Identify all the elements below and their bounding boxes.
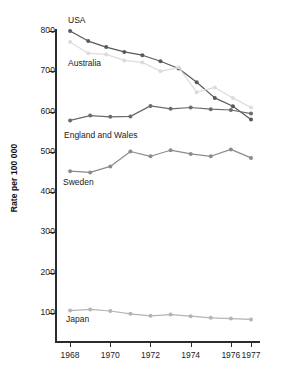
data-point [104, 52, 108, 56]
data-point [140, 53, 144, 57]
series-lines [0, 0, 282, 381]
data-point [68, 309, 72, 313]
data-point [128, 150, 132, 154]
plot-area [0, 0, 282, 381]
data-point [68, 118, 72, 122]
series-line [70, 149, 251, 172]
data-point [213, 85, 217, 89]
data-point [86, 39, 90, 43]
series-england-and-wales [68, 104, 253, 123]
data-point [108, 115, 112, 119]
data-point [213, 96, 217, 100]
data-point [122, 50, 126, 54]
data-point [149, 154, 153, 158]
data-point [108, 309, 112, 313]
data-point [249, 112, 253, 116]
data-point [122, 58, 126, 62]
data-point [149, 104, 153, 108]
series-line [70, 42, 251, 108]
data-point [189, 314, 193, 318]
series-line [70, 309, 251, 319]
data-point [209, 107, 213, 111]
data-point [169, 313, 173, 317]
data-point [231, 96, 235, 100]
data-point [88, 307, 92, 311]
data-point [88, 114, 92, 118]
data-point [128, 114, 132, 118]
data-point [231, 104, 235, 108]
data-point [169, 148, 173, 152]
data-point [68, 29, 72, 33]
data-point [189, 152, 193, 156]
series-line [70, 31, 251, 120]
data-point [169, 107, 173, 111]
data-point [249, 156, 253, 160]
series-line [70, 106, 251, 121]
data-point [209, 316, 213, 320]
data-point [229, 108, 233, 112]
data-point [209, 154, 213, 158]
data-point [249, 118, 253, 122]
series-label-australia: Australia [68, 58, 101, 68]
data-point [104, 45, 108, 49]
data-point [249, 106, 253, 110]
series-australia [68, 40, 253, 110]
data-point [249, 317, 253, 321]
data-point [195, 80, 199, 84]
data-point [68, 40, 72, 44]
series-japan [68, 307, 253, 321]
data-point [229, 317, 233, 321]
data-point [177, 65, 181, 69]
data-point [68, 169, 72, 173]
data-point [86, 51, 90, 55]
data-point [229, 147, 233, 151]
chart-container: Rate per 100 000 10020030040050060070080… [0, 0, 282, 381]
data-point [140, 60, 144, 64]
series-label-england-and-wales: England and Wales [64, 130, 137, 140]
series-label-sweden: Sweden [63, 177, 94, 187]
series-label-japan: Japan [66, 314, 89, 324]
data-point [195, 90, 199, 94]
data-point [128, 312, 132, 316]
data-point [159, 59, 163, 63]
series-sweden [68, 147, 253, 174]
series-label-usa: USA [68, 15, 85, 25]
data-point [189, 106, 193, 110]
data-point [108, 164, 112, 168]
data-point [149, 314, 153, 318]
data-point [88, 170, 92, 174]
data-point [159, 69, 163, 73]
